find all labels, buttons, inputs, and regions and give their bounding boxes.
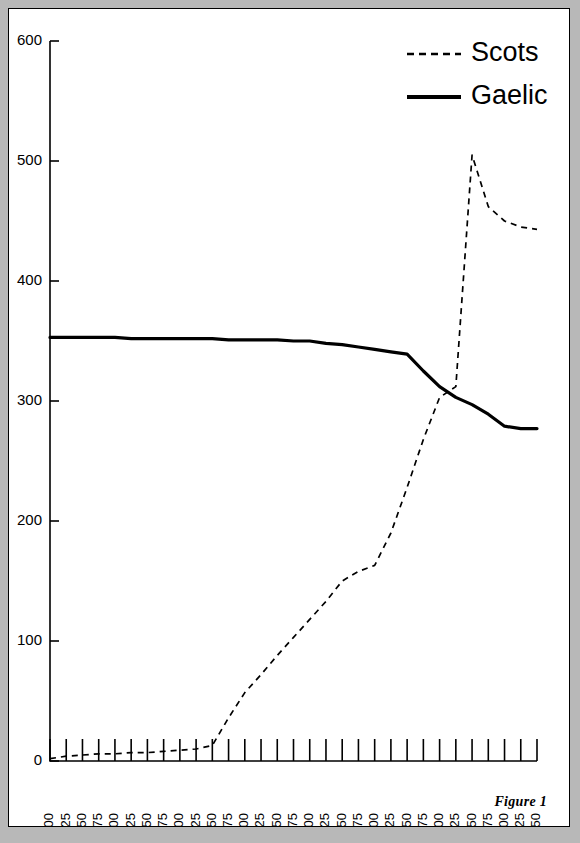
x-tick-label: 1875 bbox=[480, 813, 495, 828]
x-tick-label: 1375 bbox=[155, 813, 170, 828]
x-tick-label: 1700 bbox=[366, 813, 381, 828]
legend-label-scots: Scots bbox=[471, 37, 539, 67]
chart-plot-area: 0100200300400500600120012251250127513001… bbox=[9, 9, 571, 828]
x-tick-label: 1200 bbox=[41, 813, 56, 828]
legend-label-gaelic: Gaelic bbox=[471, 80, 548, 110]
y-tick-label: 300 bbox=[17, 391, 42, 408]
x-tick-label: 1725 bbox=[382, 813, 397, 828]
x-tick-label: 1250 bbox=[74, 813, 89, 828]
x-tick-label: 1625 bbox=[317, 813, 332, 828]
x-tick-label: 1800 bbox=[431, 813, 446, 828]
x-tick-label: 1650 bbox=[334, 813, 349, 828]
x-tick-label: 1400 bbox=[171, 813, 186, 828]
series-line-gaelic bbox=[50, 337, 537, 428]
x-tick-label: 1950 bbox=[528, 813, 543, 828]
x-tick-label: 1825 bbox=[447, 813, 462, 828]
x-tick-label: 1275 bbox=[90, 813, 105, 828]
x-tick-label: 1925 bbox=[512, 813, 527, 828]
x-tick-label: 1525 bbox=[252, 813, 267, 828]
x-tick-label: 1675 bbox=[350, 813, 365, 828]
x-tick-label: 1850 bbox=[464, 813, 479, 828]
y-tick-label: 100 bbox=[17, 631, 42, 648]
figure-container: 0100200300400500600120012251250127513001… bbox=[8, 8, 570, 827]
x-tick-label: 1350 bbox=[139, 813, 154, 828]
y-tick-label: 0 bbox=[34, 751, 42, 768]
x-tick-label: 1550 bbox=[269, 813, 284, 828]
x-tick-label: 1300 bbox=[106, 813, 121, 828]
x-tick-label: 1225 bbox=[58, 813, 73, 828]
x-tick-label: 1575 bbox=[285, 813, 300, 828]
x-tick-label: 1900 bbox=[496, 813, 511, 828]
x-tick-label: 1775 bbox=[415, 813, 430, 828]
x-tick-label: 1500 bbox=[236, 813, 251, 828]
x-tick-label: 1750 bbox=[399, 813, 414, 828]
y-tick-label: 600 bbox=[17, 31, 42, 48]
x-tick-label: 1600 bbox=[301, 813, 316, 828]
x-tick-label: 1325 bbox=[123, 813, 138, 828]
x-tick-label: 1475 bbox=[220, 813, 235, 828]
series-line-scots bbox=[50, 155, 537, 759]
y-tick-label: 200 bbox=[17, 511, 42, 528]
y-tick-label: 500 bbox=[17, 151, 42, 168]
y-tick-label: 400 bbox=[17, 271, 42, 288]
x-tick-label: 1425 bbox=[188, 813, 203, 828]
line-chart: 0100200300400500600120012251250127513001… bbox=[9, 9, 571, 828]
x-tick-label: 1450 bbox=[204, 813, 219, 828]
figure-caption: Figure 1 bbox=[494, 794, 547, 810]
